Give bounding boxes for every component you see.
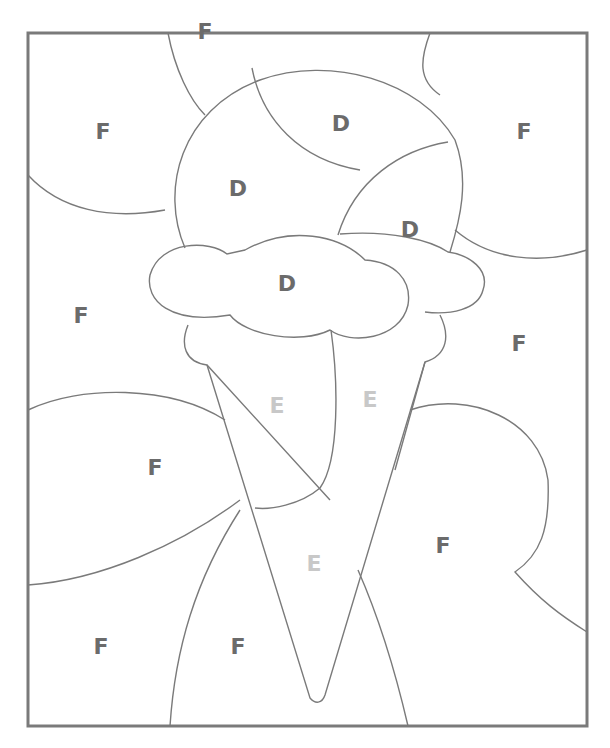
- page-frame: [28, 33, 587, 726]
- bottom-left-arc: [170, 510, 240, 726]
- region-letter-f8: F: [93, 636, 108, 658]
- scoop-right-drip: [340, 233, 484, 313]
- region-letter-f6: F: [147, 457, 162, 479]
- region-letter-d4: D: [278, 273, 296, 295]
- left-lower-circle-bottom: [28, 500, 240, 585]
- region-letter-f2: F: [95, 121, 110, 143]
- region-letter-d1: D: [332, 113, 350, 135]
- right-lower-circle-outline: [410, 404, 587, 632]
- scoop-outline: [175, 70, 463, 252]
- cone-inner-division: [255, 330, 336, 508]
- region-letter-f7: F: [435, 535, 450, 557]
- region-letter-d3: D: [401, 219, 419, 241]
- right-circle-outline: [423, 33, 587, 258]
- region-letter-f1: F: [197, 21, 212, 43]
- scoop-division-2: [338, 142, 448, 235]
- region-letter-f3: F: [516, 121, 531, 143]
- region-letter-f4: F: [73, 305, 88, 327]
- cone-band-outline: [184, 315, 445, 500]
- region-letter-e1: E: [269, 395, 284, 417]
- left-lower-circle-outline: [28, 392, 225, 420]
- top-circle-outline: [168, 33, 205, 115]
- region-letter-e3: E: [306, 553, 321, 575]
- coloring-page-drawing: [0, 0, 610, 748]
- region-letter-f5: F: [511, 333, 526, 355]
- bottom-right-arc: [358, 570, 408, 726]
- region-letter-f9: F: [230, 636, 245, 658]
- left-circle-outline: [28, 175, 165, 214]
- region-letter-d2: D: [229, 178, 247, 200]
- region-letter-e2: E: [362, 389, 377, 411]
